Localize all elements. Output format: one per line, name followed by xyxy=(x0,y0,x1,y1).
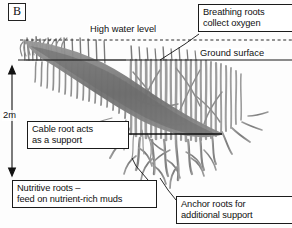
callout-cable-root: Cable root acts as a support xyxy=(27,121,129,149)
high-water-level-label: High water level xyxy=(89,24,157,35)
panel-label-b: B xyxy=(8,3,26,21)
callout-breathing-roots: Breathing roots collect oxygen xyxy=(198,4,292,32)
ground-surface-label: Ground surface xyxy=(199,48,265,59)
scale-label-2m: 2m xyxy=(2,110,17,121)
leader-anchor xyxy=(160,178,176,200)
callout-anchor-roots: Anchor roots for additional support xyxy=(176,196,292,224)
callout-nutritive-roots: Nutritive roots – feed on nutrient-rich … xyxy=(12,180,157,208)
breathing-roots-right-field xyxy=(131,41,196,60)
leader-nutritive xyxy=(132,158,148,180)
figure-panel: B High water level Ground surface 2m Bre… xyxy=(0,0,292,228)
scale-arrow-2m xyxy=(9,66,16,176)
